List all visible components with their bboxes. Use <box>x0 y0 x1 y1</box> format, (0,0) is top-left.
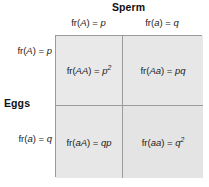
row-header-allele-A: fr(A) = p <box>0 45 52 56</box>
cell-AA-genotype: AA <box>76 65 89 76</box>
punnett-cell-aa: fr(aa) = q2 <box>123 106 203 178</box>
column-A-fr-prefix: fr( <box>71 17 80 28</box>
cell-aa-text: fr(aa) = q2 <box>142 137 185 148</box>
column-A-suffix: ) = <box>87 17 101 28</box>
row-A-frequency: p <box>47 45 52 56</box>
cell-aa-exponent: 2 <box>181 135 185 142</box>
column-header-allele-a: fr(a) = q <box>122 17 202 28</box>
cell-aA-suffix: ) = <box>87 137 101 148</box>
cell-aa-suffix: ) = <box>161 137 175 148</box>
cell-aa-genotype: aa <box>151 137 162 148</box>
cell-AA-exponent: 2 <box>108 64 112 71</box>
row-A-fr-prefix: fr( <box>17 45 26 56</box>
column-header-allele-A: fr(A) = p <box>55 17 122 28</box>
cell-AA-fr-prefix: fr( <box>67 65 76 76</box>
cell-AA-suffix: ) = <box>88 65 102 76</box>
cell-Aa-value: pq <box>175 65 186 76</box>
column-A-frequency: p <box>101 17 106 28</box>
row-a-suffix: ) = <box>33 133 47 144</box>
punnett-cell-Aa: fr(Aa) = pq <box>123 36 203 106</box>
row-a-frequency: q <box>47 133 52 144</box>
column-a-frequency: q <box>173 17 178 28</box>
column-a-suffix: ) = <box>159 17 173 28</box>
punnett-cell-aA: fr(aA) = qp <box>56 106 123 178</box>
cell-aa-fr-prefix: fr( <box>142 137 151 148</box>
cell-Aa-genotype: Aa <box>149 65 161 76</box>
cell-aA-value: qp <box>101 137 112 148</box>
cell-aA-genotype: aA <box>75 137 87 148</box>
column-a-fr-prefix: fr( <box>145 17 154 28</box>
cell-Aa-text: fr(Aa) = pq <box>140 65 185 76</box>
punnett-square-figure: Sperm fr(A) = p fr(a) = q Eggs fr(A) = p… <box>0 0 209 187</box>
punnett-cell-AA: fr(AA) = p2 <box>56 36 123 106</box>
cell-AA-text: fr(AA) = p2 <box>67 65 112 76</box>
row-header-allele-a: fr(a) = q <box>0 133 52 144</box>
sperm-header-label: Sperm <box>55 1 202 13</box>
cell-aA-text: fr(aA) = qp <box>66 137 111 148</box>
cell-Aa-suffix: ) = <box>161 65 175 76</box>
row-A-suffix: ) = <box>33 45 47 56</box>
eggs-header-label: Eggs <box>4 97 30 109</box>
punnett-grid: fr(AA) = p2 fr(Aa) = pq fr(aA) = qp fr(a… <box>55 35 202 177</box>
